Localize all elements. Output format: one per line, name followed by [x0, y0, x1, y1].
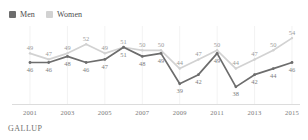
data-point-men[interactable] [234, 85, 237, 88]
x-axis-tick-labels: 20012003200520072009201120132015 [0, 108, 308, 120]
data-point-men[interactable] [197, 73, 200, 76]
value-label-women: 47 [45, 50, 52, 57]
value-label-men: 48 [139, 60, 146, 67]
data-point-men[interactable] [178, 82, 181, 85]
value-label-women: 50 [270, 41, 277, 48]
x-tick-2007: 2007 [135, 108, 149, 117]
value-label-women: 50 [139, 41, 146, 48]
data-point-women[interactable] [197, 58, 199, 60]
legend-item-women[interactable]: Women [46, 10, 82, 19]
x-tick-2013: 2013 [248, 108, 262, 117]
value-label-men: 38 [233, 90, 240, 97]
x-tick-2011: 2011 [210, 108, 224, 117]
source-attribution: GALLUP [8, 124, 43, 134]
value-label-men: 42 [195, 78, 202, 85]
data-point-men[interactable] [160, 52, 163, 55]
data-point-women[interactable] [85, 43, 87, 45]
x-tick-2009: 2009 [173, 108, 187, 117]
legend-item-men[interactable]: Men [9, 10, 35, 19]
value-label-men: 46 [27, 66, 34, 73]
value-label-women: 50 [214, 41, 221, 48]
data-point-men[interactable] [103, 58, 106, 61]
data-point-women[interactable] [66, 52, 68, 54]
data-point-women[interactable] [291, 37, 293, 39]
value-label-women: 51 [120, 38, 127, 45]
data-point-men[interactable] [216, 52, 219, 55]
value-label-men: 49 [214, 57, 221, 64]
value-label-women: 49 [27, 44, 34, 51]
data-point-women[interactable] [160, 49, 162, 51]
value-label-men: 42 [251, 78, 258, 85]
value-label-women: 52 [83, 35, 90, 42]
data-point-men[interactable] [272, 67, 275, 70]
x-tick-2005: 2005 [98, 108, 112, 117]
data-point-women[interactable] [179, 67, 181, 69]
data-point-men[interactable] [66, 55, 69, 58]
legend-swatch-women [46, 11, 53, 18]
legend-label-men: Men [20, 10, 35, 19]
x-tick-2001: 2001 [23, 108, 37, 117]
data-point-men[interactable] [141, 55, 144, 58]
value-label-men: 48 [64, 60, 71, 67]
data-point-men[interactable] [85, 61, 88, 64]
value-label-men: 46 [83, 66, 90, 73]
gallup-line-chart: Men Women 464648464751484939424938424446… [0, 0, 308, 140]
data-point-women[interactable] [272, 49, 274, 51]
value-label-women: 44 [176, 59, 183, 66]
x-tick-2003: 2003 [60, 108, 74, 117]
value-label-men: 39 [176, 87, 183, 94]
chart-title-sliver [0, 0, 308, 4]
value-label-women: 49 [102, 44, 109, 51]
data-point-men[interactable] [122, 46, 125, 49]
value-label-women: 50 [158, 41, 165, 48]
value-label-men: 46 [45, 66, 52, 73]
value-label-men: 49 [158, 57, 165, 64]
value-label-women: 49 [64, 44, 71, 51]
data-point-women[interactable] [216, 49, 218, 51]
legend-label-women: Women [57, 10, 82, 19]
value-label-men: 46 [289, 66, 296, 73]
value-label-women: 47 [251, 50, 258, 57]
data-point-women[interactable] [235, 67, 237, 69]
data-point-women[interactable] [253, 58, 255, 60]
data-point-men[interactable] [253, 73, 256, 76]
data-point-men[interactable] [29, 61, 32, 64]
legend-swatch-men [9, 11, 16, 18]
value-label-men: 51 [120, 51, 127, 58]
data-point-women[interactable] [29, 52, 31, 54]
data-point-women[interactable] [104, 52, 106, 54]
data-point-men[interactable] [291, 61, 294, 64]
x-tick-2015: 2015 [285, 108, 299, 117]
value-label-women: 44 [233, 59, 240, 66]
data-point-men[interactable] [47, 61, 50, 64]
value-label-women: 54 [289, 29, 296, 36]
data-point-women[interactable] [48, 58, 50, 60]
value-label-men: 44 [270, 72, 277, 79]
value-label-men: 47 [102, 63, 109, 70]
value-label-women: 47 [195, 50, 202, 57]
x-axis-line [12, 104, 300, 105]
plot-area: 4646484647514849394249384244464947495249… [0, 26, 308, 104]
data-point-women[interactable] [141, 49, 143, 51]
chart-legend: Men Women [9, 8, 82, 20]
